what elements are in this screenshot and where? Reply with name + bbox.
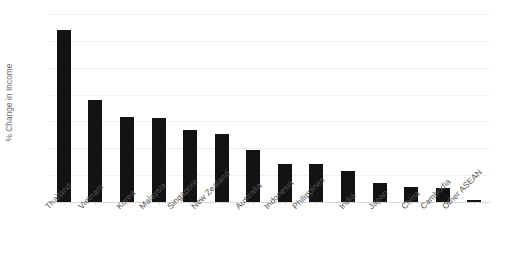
y-axis-title: % Change in Income [0,0,20,205]
bars [48,14,490,202]
x-axis-tick-labels: ThailandVietnamKoreaMalaysiaSingaporeNew… [48,204,490,273]
bar [57,30,71,202]
y-axis-title-text: % Change in Income [6,64,15,142]
bar [215,134,229,202]
bar-chart: % Change in Income 02468101214 ThailandV… [0,0,509,273]
plot-area: 02468101214 [48,14,490,202]
